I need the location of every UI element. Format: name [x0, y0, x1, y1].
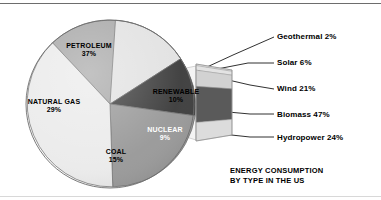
breakout-segment-biomass[interactable] [196, 86, 232, 122]
chart-caption-line-1: ENERGY CONSUMPTION [230, 166, 323, 176]
callout-label-solar: Solar 6% [277, 58, 312, 67]
callout-label-hydropower: Hydropower 24% [277, 133, 343, 142]
chart-caption-line-2: BY TYPE IN THE US [230, 176, 323, 186]
callout-label-biomass: Biomass 47% [277, 110, 330, 119]
callout-label-wind: Wind 21% [277, 84, 316, 93]
breakout-column [196, 64, 232, 141]
pie-slices [0, 0, 216, 200]
pie-of-pie-chart [0, 0, 381, 200]
chart-figure: PETROLEUM 37% NATURAL GAS 29% COAL 15% N… [0, 0, 381, 200]
callout-label-geothermal: Geothermal 2% [277, 32, 337, 41]
chart-caption: ENERGY CONSUMPTION BY TYPE IN THE US [230, 166, 323, 186]
leader-line-biomass [228, 112, 274, 114]
